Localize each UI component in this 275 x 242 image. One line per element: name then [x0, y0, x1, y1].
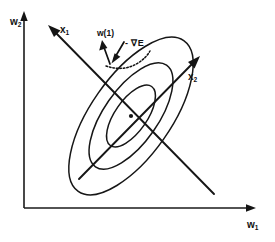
w2-axis-label-text: w — [10, 16, 18, 27]
x2-axis-label-subscript: 2 — [194, 76, 198, 83]
contour-diagram-svg — [0, 0, 275, 242]
weight-point-label: w(1) — [97, 29, 114, 38]
x1-axis-label-subscript: 1 — [66, 29, 70, 36]
w1-axis-label-text: w — [247, 219, 255, 230]
principal-axes-group — [48, 25, 214, 194]
negative-gradient-label: - ∇E — [125, 39, 144, 48]
w1-axis-label-subscript: 1 — [255, 224, 259, 231]
error-minimum-dot — [129, 114, 133, 118]
negative-gradient-arrowhead — [99, 40, 107, 51]
x2-axis-line — [79, 62, 194, 179]
x2-axis-label: x2 — [188, 72, 197, 84]
w1-axis-arrowhead — [246, 204, 256, 211]
x1-axis-line — [54, 31, 214, 194]
w2-axis-label-subscript: 2 — [18, 21, 22, 28]
x1-axis-label: x1 — [60, 25, 69, 37]
w2-axis-label: w2 — [10, 17, 21, 29]
w1-axis-label: w1 — [247, 220, 258, 232]
descent-step-arrowhead — [112, 53, 121, 63]
figure-root: w2 w1 x1 x2 w(1) - ∇E — [0, 0, 275, 242]
